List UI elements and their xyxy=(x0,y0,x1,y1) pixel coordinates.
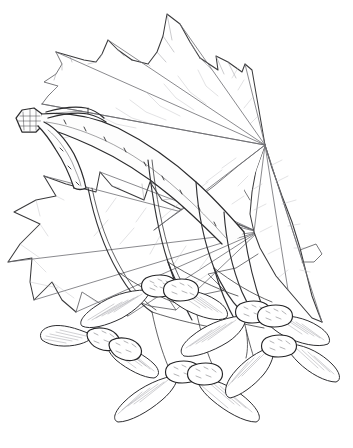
botanical-drawing-canvas xyxy=(0,0,353,448)
illustration-plate xyxy=(0,0,353,448)
